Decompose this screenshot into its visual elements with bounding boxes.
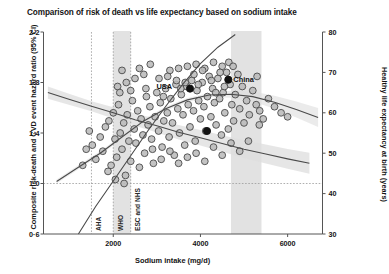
y-tick-label-left: 1·4	[20, 129, 40, 138]
scatter-point	[254, 73, 261, 80]
scatter-point	[155, 128, 162, 135]
scatter-point	[184, 63, 191, 70]
annotation-usa: USA	[156, 82, 172, 91]
scatter-point	[127, 87, 134, 94]
y-tick-label-right: 40	[329, 189, 337, 198]
scatter-point	[132, 75, 139, 82]
scatter-point	[140, 71, 147, 78]
scatter-point	[108, 162, 115, 169]
scatter-point	[125, 138, 132, 145]
x-tick-label: 2000	[99, 239, 127, 248]
y-tick-label-right: 70	[329, 68, 337, 77]
scatter-point	[158, 156, 165, 163]
scatter-point	[246, 111, 253, 118]
scatter-point	[117, 130, 124, 137]
scatter-point	[119, 146, 126, 153]
x-tick-label: 6000	[274, 239, 302, 248]
scatter-point	[194, 87, 201, 94]
scatter-point	[219, 152, 226, 159]
scatter-point	[236, 105, 243, 112]
scatter-point	[256, 122, 263, 129]
scatter-point	[245, 138, 252, 145]
scatter-point	[113, 154, 120, 161]
scatter-point	[121, 180, 128, 187]
scatter-point	[271, 103, 278, 110]
scatter-point	[86, 128, 93, 135]
scatter-point	[119, 67, 126, 74]
scatter-point	[167, 148, 174, 155]
scatter-point	[253, 101, 260, 108]
scatter-point	[187, 124, 194, 131]
scatter-point	[217, 69, 224, 76]
scatter-point	[221, 83, 228, 90]
scatter-point	[106, 118, 113, 125]
guideline-label-aha: AHA	[95, 217, 102, 231]
scatter-point	[249, 87, 256, 94]
scatter-point	[150, 160, 157, 167]
y-tick-label-left: 1·8	[20, 78, 40, 87]
scatter-point	[216, 95, 223, 102]
scatter-point	[175, 160, 182, 167]
highlight-point	[186, 85, 193, 92]
scatter-point	[223, 69, 230, 76]
scatter-point	[192, 138, 199, 145]
scatter-point	[143, 85, 150, 92]
scatter-point	[120, 120, 127, 127]
scatter-point	[210, 144, 217, 151]
scatter-point	[193, 150, 200, 157]
guideline-label-esc-and-nhs: ESC and NHS	[134, 188, 141, 231]
y-tick-label-left: 1·0	[20, 179, 40, 188]
scatter-point	[175, 65, 182, 72]
scatter-point	[116, 89, 123, 96]
scatter-point	[89, 142, 96, 149]
scatter-point	[143, 93, 150, 100]
scatter-point	[221, 109, 228, 116]
scatter-point	[166, 134, 173, 141]
scatter-point	[225, 126, 232, 133]
scatter-point	[129, 97, 136, 104]
scatter-point	[190, 107, 197, 114]
guideline-label-who: WHO	[117, 215, 124, 231]
scatter-point	[197, 116, 204, 123]
y-tick-label-right: 80	[329, 28, 337, 37]
scatter-point	[181, 142, 188, 149]
scatter-point	[156, 75, 163, 82]
scatter-point	[278, 109, 285, 116]
highlight-point-china	[225, 76, 232, 83]
scatter-point	[210, 59, 217, 66]
highlight-point	[203, 127, 210, 134]
scatter-point	[185, 101, 192, 108]
scatter-point	[180, 111, 187, 118]
scatter-point	[164, 109, 171, 116]
scatter-point	[228, 101, 235, 108]
scatter-point	[164, 73, 171, 80]
scatter-point	[241, 120, 248, 127]
scatter-point	[230, 63, 237, 70]
y-tick-label-right: 30	[329, 230, 337, 239]
scatter-point	[260, 116, 267, 123]
scatter-point	[148, 136, 155, 143]
scatter-point	[141, 150, 148, 157]
scatter-point	[284, 113, 291, 120]
annotation-china: China	[233, 75, 254, 84]
scatter-point	[213, 122, 220, 129]
scatter-point	[160, 93, 167, 100]
scatter-point	[169, 120, 176, 127]
scatter-point	[159, 144, 166, 151]
confidence-band-group	[48, 87, 318, 184]
scatter-point	[97, 134, 104, 141]
scatter-point	[123, 79, 130, 86]
scatter-point	[193, 61, 200, 68]
scatter-point	[204, 93, 211, 100]
scatter-point	[208, 113, 215, 120]
scatter-point	[201, 158, 208, 165]
scatter-point	[160, 118, 167, 125]
shaded-band	[231, 31, 262, 234]
scatter-point	[243, 97, 250, 104]
scatter-point	[115, 101, 122, 108]
y-tick-label-left: 0·6	[20, 230, 40, 239]
y-tick-label-right: 50	[329, 149, 337, 158]
y-tick-label-left: 2·2	[20, 28, 40, 37]
scatter-point	[199, 67, 206, 74]
